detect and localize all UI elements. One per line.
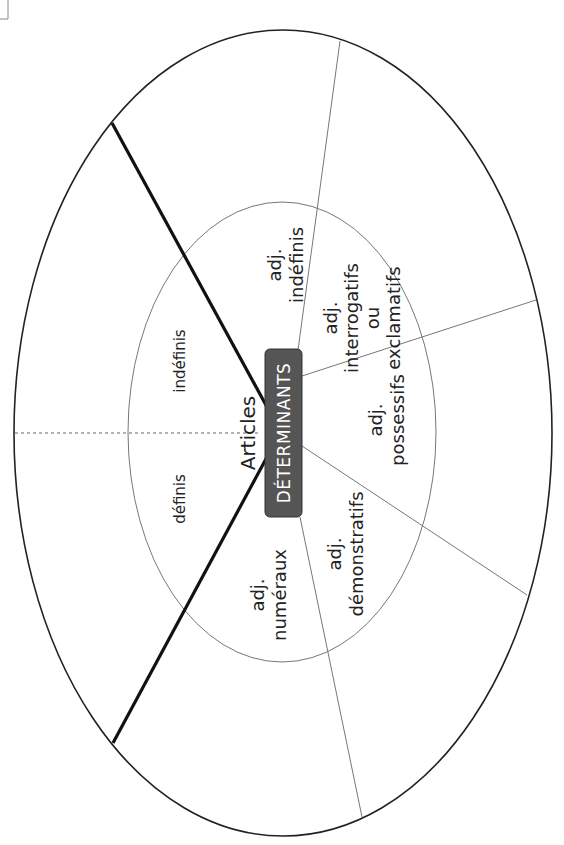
articles-definis: définis (171, 474, 189, 524)
adj-indefinis-line2: indéfinis (286, 227, 307, 303)
adj-numeraux-line1: adj. (247, 578, 268, 611)
adj-possessifs-line2: possessifs (387, 374, 408, 466)
adj-interrogatifs-line2: interrogatifs (341, 263, 362, 373)
determinants-diagram: DÉTERMINANTS Articles définis indéfinis … (0, 0, 564, 845)
adj-numeraux-line2: numéraux (269, 549, 290, 641)
sector-adj-possessifs: adj. possessifs (365, 374, 408, 466)
sector-adj-demonstratifs: adj. démonstratifs (324, 491, 367, 616)
articles-boundary-bottom (113, 457, 267, 743)
adj-indefinis-line1: adj. (264, 248, 285, 281)
corner-frame (0, 0, 8, 19)
adj-demonstratifs-line1: adj. (324, 537, 345, 570)
sector-adj-numeraux: adj. numéraux (247, 549, 290, 641)
adj-interrogatifs-line3: ou (362, 307, 383, 329)
adj-interrogatifs-line4: exclamatifs (383, 266, 404, 369)
sector-line-3 (302, 446, 527, 595)
articles-indefinis: indéfinis (171, 329, 189, 393)
articles-title: Articles (236, 396, 260, 471)
adj-interrogatifs-line1: adj. (320, 301, 341, 334)
adj-demonstratifs-line2: démonstratifs (346, 491, 367, 616)
sector-adj-indefinis: adj. indéfinis (264, 227, 307, 303)
center-label: DÉTERMINANTS (273, 363, 294, 504)
adj-possessifs-line1: adj. (365, 403, 386, 436)
